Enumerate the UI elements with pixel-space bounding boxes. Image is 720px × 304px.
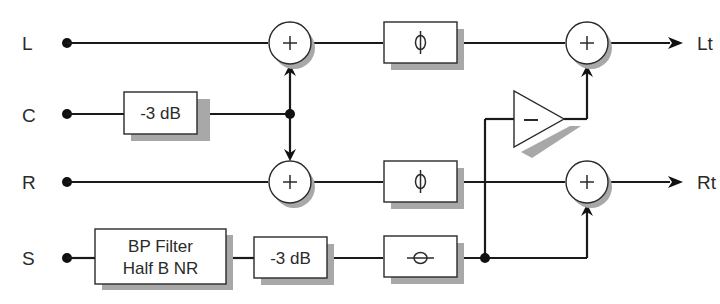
s-attenuator-block: -3 dB [254, 237, 334, 285]
wires [67, 43, 670, 258]
input-label-r: R [22, 172, 36, 193]
input-label-s: S [22, 248, 35, 269]
s-filter-block: BP Filter Half B NR [95, 229, 233, 290]
s-filter-label-line1: BP Filter [128, 237, 193, 256]
junction-c [285, 109, 295, 119]
c-attenuator-block: -3 dB [124, 92, 210, 141]
output-arrow-rt [668, 176, 683, 188]
s-phase-shift-block [384, 236, 464, 284]
summer-r [269, 161, 315, 208]
junction-s [480, 253, 490, 263]
input-label-l: L [22, 33, 33, 54]
inverter-block [514, 91, 581, 158]
summer-rt [566, 161, 612, 208]
input-label-c: C [22, 105, 36, 126]
output-label-lt: Lt [697, 33, 714, 54]
arrowheads [284, 37, 683, 216]
output-label-rt: Rt [697, 172, 717, 193]
s-attenuator-label: -3 dB [270, 249, 311, 268]
summer-lt [566, 22, 612, 69]
output-arrow-lt [668, 37, 683, 49]
c-attenuator-label: -3 dB [140, 104, 181, 123]
r-phase-shift-block [384, 161, 464, 209]
s-filter-label-line2: Half B NR [123, 259, 199, 278]
summer-l [269, 22, 315, 69]
encoder-diagram: L C R S [0, 0, 720, 304]
l-phase-shift-block [384, 22, 464, 70]
